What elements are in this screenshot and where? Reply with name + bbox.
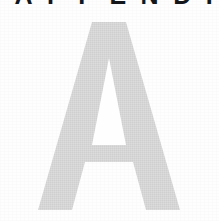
drop-letter-a-icon xyxy=(0,0,219,221)
drop-letter-container xyxy=(0,0,219,221)
appendix-divider-page: APPENDIX xyxy=(0,0,219,221)
